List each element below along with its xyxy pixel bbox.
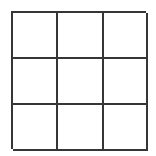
grid-cell-row3-col2[interactable]	[58, 105, 104, 151]
grid-cell-row3-col1[interactable]	[13, 105, 58, 151]
grid-cell-row1-col1[interactable]	[13, 13, 58, 59]
grid-cell-row2-col2[interactable]	[58, 59, 104, 105]
grid-cell-row2-col1[interactable]	[13, 59, 58, 105]
grid-cell-label	[13, 13, 56, 57]
figure-canvas	[0, 0, 156, 156]
grid-cell-label	[104, 59, 146, 103]
grid-cell-label	[58, 59, 102, 103]
grid-cell-label	[58, 105, 102, 149]
grid-cell-label	[104, 13, 146, 57]
grid-cell-label	[13, 59, 56, 103]
grid-cell-label	[104, 105, 146, 149]
grid-cell-row3-col3[interactable]	[104, 105, 148, 151]
grid-cell-row2-col3[interactable]	[104, 59, 148, 105]
grid-cell-label	[13, 105, 56, 149]
grid-cell-row1-col2[interactable]	[58, 13, 104, 59]
grid-cell-label	[58, 13, 102, 57]
grid-cell-row1-col3[interactable]	[104, 13, 148, 59]
three-by-three-grid	[11, 11, 146, 149]
